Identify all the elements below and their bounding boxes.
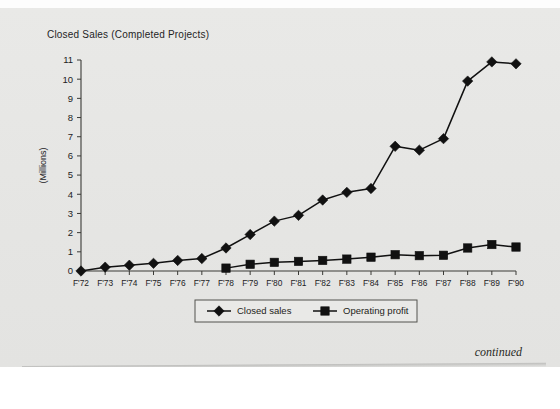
y-tick-label: 2	[68, 227, 73, 238]
chart-series-group	[76, 57, 521, 276]
x-tick-label: F'85	[387, 278, 403, 288]
y-axis-label: (Millions)	[38, 147, 48, 183]
x-tick-label: F'77	[194, 278, 210, 288]
series-markers	[76, 57, 521, 276]
x-tick-label: F'78	[218, 278, 234, 288]
x-tick-label: F'88	[460, 278, 476, 288]
x-tick-label: F'76	[170, 278, 186, 288]
scanned-page: Closed Sales (Completed Projects) 012345…	[0, 0, 560, 409]
x-tick-label: F'72	[73, 278, 89, 288]
x-tick-label: F'79	[242, 278, 258, 288]
x-tick-label: F'81	[290, 278, 306, 288]
x-tick-label: F'75	[145, 278, 161, 288]
x-tick-label: F'73	[97, 278, 113, 288]
y-tick-label: 11	[63, 54, 73, 65]
y-tick-label: 4	[68, 189, 73, 200]
y-tick-label: 6	[68, 150, 73, 161]
y-tick-label: 3	[68, 208, 73, 219]
x-tick-label: F'80	[266, 278, 282, 288]
legend-item-label: Operating profit	[343, 305, 409, 316]
y-tick-label: 1	[68, 246, 73, 257]
x-tick-label: F'84	[363, 278, 379, 288]
continued-note: continued	[475, 345, 522, 360]
y-axis: 01234567891011(Millions)	[38, 54, 81, 276]
legend-item-label: Closed sales	[237, 305, 292, 316]
y-tick-label: 9	[68, 93, 73, 104]
series-markers	[222, 240, 520, 272]
y-tick-label: 7	[68, 131, 73, 142]
x-tick-label: F'87	[435, 278, 451, 288]
y-tick-label: 10	[62, 74, 73, 85]
y-tick-label: 5	[68, 169, 73, 180]
y-tick-label: 8	[68, 112, 73, 123]
x-tick-label: F'74	[121, 278, 137, 288]
x-axis: F'72F'73F'74F'75F'76F'77F'78F'79F'80F'81…	[73, 271, 524, 288]
x-tick-label: F'89	[484, 278, 500, 288]
x-tick-label: F'90	[508, 278, 524, 288]
x-tick-label: F'86	[411, 278, 427, 288]
chart-legend: Closed salesOperating profit	[195, 300, 417, 322]
x-tick-label: F'83	[339, 278, 355, 288]
y-tick-label: 0	[68, 265, 73, 276]
x-tick-label: F'82	[315, 278, 331, 288]
